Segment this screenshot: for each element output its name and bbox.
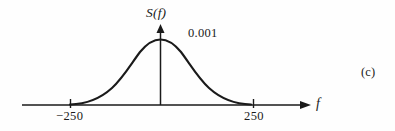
x-tick-label-left: −250	[56, 110, 83, 123]
x-axis	[22, 101, 311, 109]
y-axis-arrowhead-icon	[157, 24, 165, 33]
peak-value-label: 0.001	[188, 27, 218, 40]
y-axis-label: S(f)	[146, 6, 166, 20]
panel-label: (c)	[361, 66, 375, 79]
x-axis-label: f	[316, 97, 320, 111]
y-axis	[157, 24, 165, 105]
figure-panel: S(f) 0.001 f −250 250 (c)	[0, 0, 395, 131]
x-axis-arrowhead-icon	[300, 101, 311, 109]
x-tick-label-right: 250	[244, 110, 264, 123]
